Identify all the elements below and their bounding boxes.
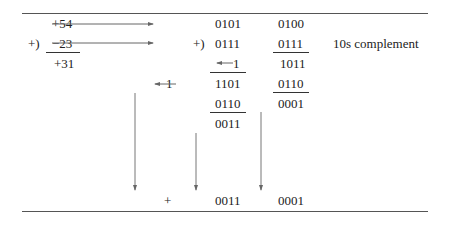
arrows-layer (0, 0, 449, 226)
